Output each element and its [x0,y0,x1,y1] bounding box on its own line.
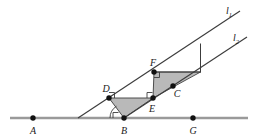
line-l2 [124,37,247,118]
label-B: B [121,125,127,136]
line-labels: l1 l2 [226,5,240,45]
label-line-2-subscript: 2 [236,38,240,45]
label-line-1-subscript: 1 [229,11,232,18]
line-l1 [78,11,240,118]
geometry-canvas: A B G D E F C l1 l2 [0,0,257,140]
dot-A [30,115,35,120]
dot-B [121,115,126,120]
dot-D [106,95,111,100]
label-line-2: l2 [233,32,240,45]
label-E: E [148,103,155,114]
dot-G [190,115,195,120]
label-D: D [101,83,110,94]
label-A: A [29,125,37,136]
label-G: G [189,125,196,136]
label-C: C [174,88,181,99]
point-labels: A B G D E F C [29,57,197,136]
geometry-figure: A B G D E F C l1 l2 [0,0,257,140]
dot-E [150,95,155,100]
label-line-1: l1 [226,5,232,18]
label-F: F [149,57,157,68]
dot-F [151,69,156,74]
triangle-BDE [109,98,153,118]
